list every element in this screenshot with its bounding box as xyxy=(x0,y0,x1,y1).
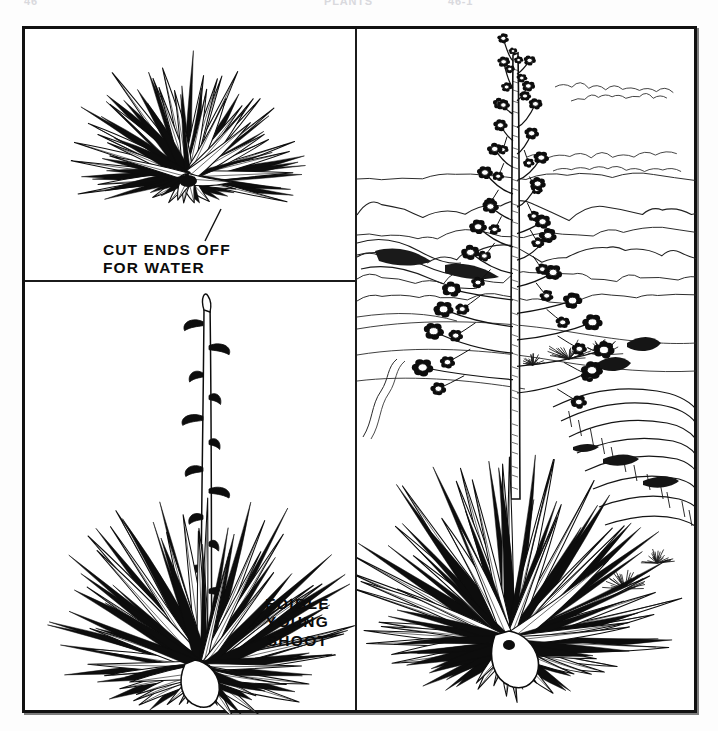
running-head: 46 PLANTS 46-1 xyxy=(0,0,718,14)
panel-rosette-with-young-shoot: EDIBLE YOUNG SHOOT 3-15’ in diameter xyxy=(25,282,355,714)
panel-mature-rosette-detail: CUT ENDS OFF FOR WATER xyxy=(25,29,355,280)
panel-mature-flowering-plant: Yellow flowers on mature stalk xyxy=(357,29,696,714)
agave-with-young-shoot-illustration xyxy=(25,282,355,714)
illustration-page: 46 PLANTS 46-1 CUT ENDS OFF FOR W xyxy=(0,0,718,731)
agave-rosette-top-illustration xyxy=(25,29,355,280)
illustration-frame: CUT ENDS OFF FOR WATER EDIBLE YOUNG SHOO… xyxy=(22,26,697,713)
running-head-folio: 46 xyxy=(24,0,38,7)
running-head-title: PLANTS xyxy=(324,0,373,7)
flowering-agave-landscape-illustration xyxy=(357,29,696,714)
running-head-figure: 46-1 xyxy=(448,0,473,7)
